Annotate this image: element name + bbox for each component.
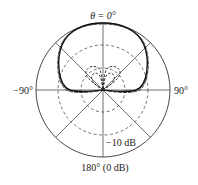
- label-left-angle: −90°: [13, 85, 33, 96]
- polar-plot: θ = 0° −90° 90° 180° (0 dB) −10 dB: [0, 0, 198, 185]
- label-top-angle: θ = 0°: [90, 10, 116, 21]
- label-minus10db: −10 dB: [106, 137, 136, 148]
- label-right-angle: 90°: [174, 85, 188, 96]
- label-bottom-angle: 180° (0 dB): [81, 162, 128, 174]
